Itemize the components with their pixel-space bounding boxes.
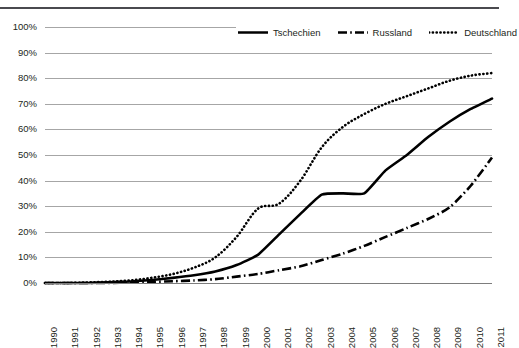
line-solid-icon (238, 28, 268, 37)
chart-legend: TschechienRusslandDeutschland (236, 25, 519, 39)
x-tick-2001: 2001 (283, 327, 293, 348)
legend-label: Tschechien (273, 27, 321, 38)
y-tick-80pct: 80% (0, 73, 37, 83)
x-tick-2005: 2005 (368, 327, 378, 348)
x-tick-1993: 1993 (113, 327, 123, 348)
series-line-tschechien (45, 99, 492, 283)
x-axis-tick-labels: 1990199119921993199419951996199719981999… (45, 285, 492, 329)
legend-label: Deutschland (464, 27, 517, 38)
y-tick-10pct: 10% (0, 253, 37, 263)
x-tick-2008: 2008 (432, 327, 442, 348)
x-tick-2003: 2003 (326, 327, 336, 348)
y-tick-60pct: 60% (0, 125, 37, 135)
x-tick-2010: 2010 (475, 327, 485, 348)
x-tick-1992: 1992 (92, 327, 102, 348)
y-tick-40pct: 40% (0, 176, 37, 186)
x-tick-2002: 2002 (304, 327, 314, 348)
top-rule-divider (0, 7, 499, 9)
y-tick-0pct: 0% (0, 278, 37, 288)
line-dotted-icon (429, 28, 459, 37)
x-axis-line (45, 283, 492, 284)
y-axis-tick-labels: 0%10%20%30%40%50%60%70%80%90%100% (0, 27, 45, 283)
x-tick-2000: 2000 (262, 327, 272, 348)
x-tick-1991: 1991 (70, 327, 80, 348)
series-lines (45, 27, 492, 283)
x-tick-1990: 1990 (49, 327, 59, 348)
series-line-deutschland (45, 73, 492, 283)
x-tick-2004: 2004 (347, 327, 357, 348)
y-tick-100pct: 100% (0, 22, 37, 32)
x-tick-1997: 1997 (198, 327, 208, 348)
y-tick-50pct: 50% (0, 150, 37, 160)
x-tick-1995: 1995 (155, 327, 165, 348)
series-line-russland (45, 158, 492, 283)
plot-area (45, 27, 492, 283)
y-tick-70pct: 70% (0, 99, 37, 109)
line-dash-dot-icon (338, 28, 368, 37)
x-tick-1999: 1999 (241, 327, 251, 348)
x-tick-2009: 2009 (453, 327, 463, 348)
legend-item-tschechien[interactable]: Tschechien (238, 27, 321, 38)
legend-item-russland[interactable]: Russland (338, 27, 413, 38)
legend-label: Russland (373, 27, 413, 38)
x-tick-1994: 1994 (134, 327, 144, 348)
y-tick-20pct: 20% (0, 227, 37, 237)
x-tick-2006: 2006 (390, 327, 400, 348)
x-tick-2007: 2007 (411, 327, 421, 348)
x-tick-1996: 1996 (177, 327, 187, 348)
y-tick-30pct: 30% (0, 201, 37, 211)
x-tick-2011: 2011 (496, 327, 506, 347)
legend-item-deutschland[interactable]: Deutschland (429, 27, 517, 38)
y-tick-90pct: 90% (0, 48, 37, 58)
x-tick-1998: 1998 (219, 327, 229, 348)
